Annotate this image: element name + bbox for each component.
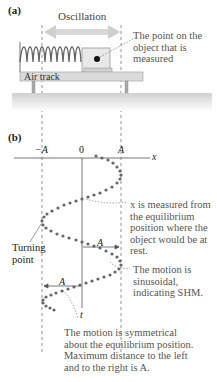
tick-neg-a: −A — [35, 144, 48, 155]
position-dots — [40, 154, 122, 311]
tick-zero: 0 — [79, 144, 84, 155]
air-track-label: Air track — [24, 71, 60, 82]
x-axis-label: x — [152, 151, 156, 162]
oscillation-arrow-icon — [44, 25, 120, 39]
sinusoidal-callout: The motion is sinusoidal, indicating SHM… — [133, 264, 203, 299]
tick-a: A — [118, 144, 124, 155]
amplitude-label-right: A — [97, 237, 103, 248]
turning-point-leader — [30, 224, 41, 242]
x-measured-leader — [86, 199, 128, 203]
panel-a-label: (a) — [8, 4, 21, 16]
x-measured-callout: x is measured from the equilibrium posit… — [130, 199, 216, 257]
spring-icon — [20, 47, 81, 62]
ground — [12, 93, 212, 111]
amplitude-arrows — [44, 245, 119, 288]
symmetrical-leader — [63, 290, 78, 318]
amplitude-label-left: A — [59, 276, 65, 287]
turning-point-label: Turning point — [12, 242, 52, 265]
measured-point-callout: The point on the object that is measured — [133, 30, 215, 65]
symmetrical-callout: The motion is symmetrical about the equi… — [64, 327, 199, 373]
oscillation-label: Oscillation — [58, 10, 106, 22]
panel-b-label: (b) — [8, 131, 21, 143]
measured-point — [94, 56, 100, 62]
t-axis-label: t — [80, 309, 83, 320]
